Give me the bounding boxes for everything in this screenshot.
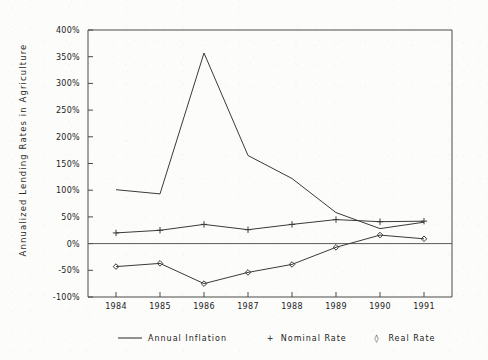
x-tick-label: 1984 bbox=[105, 302, 127, 311]
x-tick-label: 1988 bbox=[281, 302, 303, 311]
y-tick-label: 0% bbox=[67, 240, 80, 249]
y-tick-label: 100% bbox=[56, 186, 80, 195]
y-axis-ticks: -100%-50%0%50%100%150%200%250%300%350%40… bbox=[53, 26, 93, 302]
marker-nominal-rate bbox=[157, 227, 163, 233]
chart-figure: Annualized Lending Rates in Agriculture … bbox=[0, 0, 488, 360]
legend-label: Real Rate bbox=[388, 334, 435, 343]
marker-nominal-rate bbox=[333, 216, 339, 222]
marker-nominal-rate bbox=[289, 221, 295, 227]
plot-frame bbox=[88, 30, 452, 297]
y-tick-label: 50% bbox=[61, 213, 80, 222]
series-line-real-rate bbox=[116, 235, 424, 284]
data-series-layer bbox=[113, 53, 427, 286]
x-tick-label: 1990 bbox=[369, 302, 391, 311]
marker-nominal-rate bbox=[377, 219, 383, 225]
line-chart-plot: -100%-50%0%50%100%150%200%250%300%350%40… bbox=[0, 0, 488, 360]
y-tick-label: 200% bbox=[56, 133, 80, 142]
y-tick-label: -100% bbox=[53, 293, 80, 302]
legend-label: Nominal Rate bbox=[281, 334, 347, 343]
legend-label: Annual Inflation bbox=[148, 334, 227, 343]
legend-glyph-plus: + bbox=[267, 334, 275, 343]
marker-nominal-rate bbox=[421, 218, 427, 224]
x-tick-label: 1986 bbox=[193, 302, 215, 311]
y-tick-label: 300% bbox=[56, 79, 80, 88]
series-line-annual-inflation bbox=[116, 53, 424, 229]
y-tick-label: 150% bbox=[56, 160, 80, 169]
y-tick-label: 400% bbox=[56, 26, 80, 35]
plot-border bbox=[88, 30, 452, 297]
legend-glyph-diamond: ◊ bbox=[374, 334, 379, 343]
x-axis-ticks: 19841985198619871988198919901991 bbox=[105, 292, 435, 311]
y-tick-label: -50% bbox=[58, 266, 80, 275]
x-tick-label: 1987 bbox=[237, 302, 259, 311]
y-tick-label: 350% bbox=[56, 53, 80, 62]
y-tick-label: 250% bbox=[56, 106, 80, 115]
marker-nominal-rate bbox=[201, 221, 207, 227]
x-tick-label: 1989 bbox=[325, 302, 347, 311]
marker-nominal-rate bbox=[113, 230, 119, 236]
marker-nominal-rate bbox=[245, 227, 251, 233]
x-tick-label: 1985 bbox=[149, 302, 171, 311]
chart-legend: Annual Inflation+Nominal Rate◊Real Rate bbox=[118, 334, 436, 343]
x-tick-label: 1991 bbox=[413, 302, 435, 311]
